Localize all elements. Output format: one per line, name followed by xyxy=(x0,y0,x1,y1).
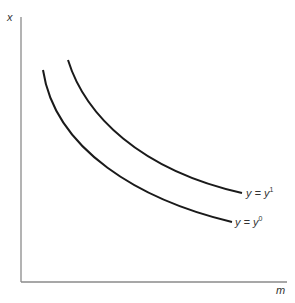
y-axis-label: x xyxy=(7,11,13,23)
curve-label-y0-sup: 0 xyxy=(259,215,263,222)
curve-label-y0-base: y = y xyxy=(235,216,259,228)
curve-label-y1-base: y = y xyxy=(246,187,270,199)
curve-label-y0: y = y0 xyxy=(235,215,262,228)
diagram-canvas xyxy=(0,0,295,303)
curve-label-y1: y = y1 xyxy=(246,186,273,199)
curve-y0 xyxy=(43,70,232,222)
curve-y1 xyxy=(68,60,242,193)
x-axis-label: m xyxy=(276,284,285,296)
curve-label-y1-sup: 1 xyxy=(270,186,274,193)
